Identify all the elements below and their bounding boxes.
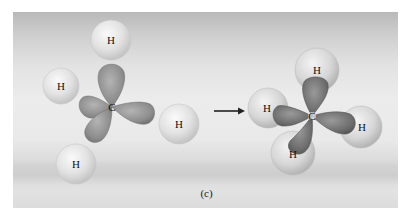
hydrogen-label: H: [289, 148, 297, 160]
left-carbon-orbitals: [79, 64, 154, 142]
hydrogen-label: H: [72, 158, 80, 170]
hydrogen-label: H: [313, 64, 321, 76]
hydrogen-label: H: [57, 80, 65, 92]
left-hydrogen-atoms: H H H H: [43, 20, 199, 184]
left-carbon-label: C: [108, 101, 115, 113]
figure-panel: C H H H H: [13, 12, 398, 208]
figure-caption: (c): [0, 187, 413, 199]
right-methane-molecule: H H H H C: [248, 48, 382, 175]
hydrogen-label: H: [263, 102, 271, 114]
hydrogen-label: H: [358, 121, 366, 133]
hydrogen-label: H: [107, 34, 115, 46]
orbital-diagram: C H H H H: [13, 12, 398, 208]
right-carbon-label: C: [308, 110, 315, 122]
reaction-arrow-icon: [214, 108, 245, 115]
hydrogen-label: H: [175, 118, 183, 130]
